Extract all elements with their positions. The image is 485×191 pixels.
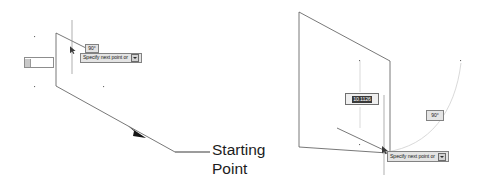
right-angle-tooltip: 90° <box>426 110 444 121</box>
snap-dot <box>34 86 35 87</box>
snap-dot <box>359 60 360 61</box>
chevron-down-icon[interactable] <box>131 54 139 62</box>
left-dynamic-input-field[interactable] <box>24 57 54 68</box>
snap-dot <box>460 60 461 61</box>
starting-point-annotation: Starting Point <box>212 140 265 178</box>
chevron-down-icon[interactable] <box>438 153 446 161</box>
right-angle-arc <box>386 63 461 152</box>
left-prompt-tooltip[interactable]: Specify next point or <box>80 53 142 63</box>
left-view-geometry <box>56 20 175 152</box>
left-bottom-diagonal-edge <box>56 86 175 152</box>
right-length-value: 10.1126 <box>352 96 372 103</box>
right-prompt-tooltip[interactable]: Specify next point or <box>387 151 449 162</box>
snap-dot <box>359 144 360 145</box>
right-length-input[interactable]: 10.1126 <box>345 93 379 105</box>
figure-canvas: 90° Specify next point or 10.1126 90° Sp… <box>0 0 485 191</box>
right-prompt-text: Specify next point or <box>390 154 435 159</box>
right-plane-bottom-edge <box>299 147 388 153</box>
direction-arrow-icon <box>128 126 146 138</box>
left-prompt-text: Specify next point or <box>83 55 128 60</box>
left-angle-tooltip: 90° <box>85 44 99 53</box>
snap-dot <box>103 86 104 87</box>
snap-dot <box>34 36 35 37</box>
right-plane-top-edge <box>299 12 390 61</box>
crosshair-cursor-icon <box>70 46 76 54</box>
field-swatch <box>25 59 31 67</box>
